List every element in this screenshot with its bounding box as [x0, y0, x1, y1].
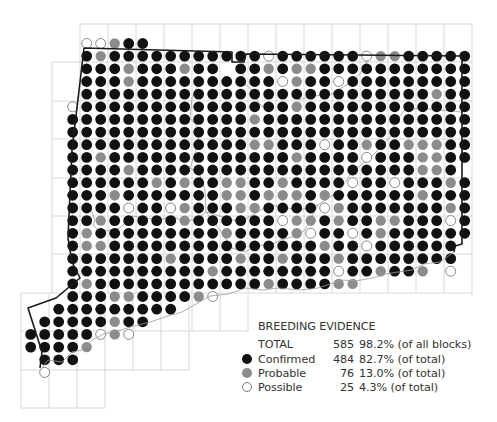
confirmed-dot	[263, 203, 274, 214]
confirmed-dot	[347, 101, 358, 112]
legend-possible-count: 25	[328, 381, 359, 395]
confirmed-dot	[207, 76, 218, 87]
confirmed-dot	[193, 177, 204, 188]
confirmed-dot	[179, 101, 190, 112]
confirmed-dot	[291, 139, 302, 150]
probable-dot	[418, 266, 428, 276]
confirmed-dot	[347, 253, 358, 264]
confirmed-dot	[361, 177, 372, 188]
confirmed-dot	[151, 304, 162, 315]
probable-dot	[418, 190, 428, 200]
confirmed-dot	[207, 152, 218, 163]
confirmed-dot	[431, 190, 442, 201]
confirmed-dot	[403, 76, 414, 87]
confirmed-dot	[459, 152, 470, 163]
probable-dot	[376, 215, 386, 225]
confirmed-dot	[137, 89, 148, 100]
confirmed-dot	[305, 89, 316, 100]
probable-dot	[124, 64, 134, 74]
confirmed-dot	[137, 76, 148, 87]
confirmed-dot	[151, 215, 162, 226]
confirmed-dot	[123, 38, 134, 49]
confirmed-dot	[193, 253, 204, 264]
confirmed-dot	[249, 76, 260, 87]
confirmed-dot	[431, 76, 442, 87]
probable-dot	[110, 317, 120, 327]
confirmed-dot	[165, 165, 176, 176]
confirmed-dot	[263, 101, 274, 112]
confirmed-dot	[291, 253, 302, 264]
confirmed-dot	[319, 114, 330, 125]
confirmed-dot	[137, 279, 148, 290]
confirmed-dot	[151, 266, 162, 277]
probable-dot	[82, 279, 92, 289]
confirmed-dot	[95, 190, 106, 201]
confirmed-dot	[123, 177, 134, 188]
probable-dot	[292, 152, 302, 162]
confirmed-dot	[375, 165, 386, 176]
legend-row-possible: Possible 25 4.3% (of total)	[258, 381, 471, 395]
confirmed-dot	[319, 89, 330, 100]
legend-confirmed-count: 484	[328, 353, 359, 367]
confirmed-dot	[25, 342, 36, 353]
confirmed-dot	[123, 241, 134, 252]
probable-dot	[222, 190, 232, 200]
possible-circle	[124, 203, 134, 213]
probable-dot	[264, 64, 274, 74]
confirmed-dot	[249, 165, 260, 176]
confirmed-dot	[305, 190, 316, 201]
possible-circle	[82, 39, 92, 49]
probable-dot	[96, 51, 106, 61]
probable-dot	[96, 215, 106, 225]
legend-row-confirmed: Confirmed 484 82.7% (of total)	[258, 353, 471, 367]
confirmed-dot	[403, 63, 414, 74]
confirmed-dot	[137, 63, 148, 74]
confirmed-dot	[305, 165, 316, 176]
confirmed-dot	[193, 76, 204, 87]
confirmed-dot	[151, 228, 162, 239]
confirmed-dot	[151, 63, 162, 74]
confirmed-dot	[445, 139, 456, 150]
probable-dot	[432, 152, 442, 162]
confirmed-dot	[291, 266, 302, 277]
confirmed-dot	[277, 63, 288, 74]
confirmed-dot	[95, 304, 106, 315]
legend-confirmed-label: Confirmed	[258, 353, 315, 366]
possible-circle	[362, 241, 372, 251]
confirmed-dot	[81, 76, 92, 87]
confirmed-dot	[333, 51, 344, 62]
confirmed-dot	[193, 152, 204, 163]
possible-circle	[334, 266, 344, 276]
confirmed-dot	[123, 127, 134, 138]
confirmed-dot	[305, 241, 316, 252]
confirmed-dot	[375, 177, 386, 188]
confirmed-dot	[95, 139, 106, 150]
confirmed-dot	[333, 127, 344, 138]
confirmed-dot	[207, 89, 218, 100]
confirmed-dot	[263, 89, 274, 100]
confirmed-dot	[95, 89, 106, 100]
confirmed-dot	[123, 114, 134, 125]
probable-dot	[278, 178, 288, 188]
confirmed-dot	[263, 76, 274, 87]
confirmed-dot	[305, 266, 316, 277]
probable-dot	[362, 140, 372, 150]
confirmed-dot	[151, 101, 162, 112]
confirmed-dot	[319, 215, 330, 226]
confirmed-dot	[137, 51, 148, 62]
confirmed-dot	[165, 139, 176, 150]
confirmed-dot	[95, 177, 106, 188]
confirmed-dot	[403, 165, 414, 176]
confirmed-dot	[67, 177, 78, 188]
confirmed-dot	[347, 76, 358, 87]
confirmed-dot	[291, 127, 302, 138]
confirmed-dot	[277, 101, 288, 112]
confirmed-dot	[81, 304, 92, 315]
confirmed-dot	[95, 291, 106, 302]
confirmed-dot	[207, 215, 218, 226]
probable-dot	[124, 291, 134, 301]
legend-row-probable: Probable 76 13.0% (of total)	[258, 367, 471, 381]
confirmed-dot	[277, 279, 288, 290]
confirmed-dot	[333, 89, 344, 100]
confirmed-dot	[221, 101, 232, 112]
